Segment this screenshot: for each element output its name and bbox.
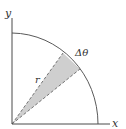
- radius-label: r: [35, 74, 41, 85]
- x-axis-label: x: [112, 117, 119, 129]
- polar-sector-diagram: y x r Δθ: [0, 0, 126, 129]
- y-axis-label: y: [4, 7, 12, 20]
- sector-wedge: [12, 53, 80, 124]
- angle-label: Δθ: [74, 47, 88, 58]
